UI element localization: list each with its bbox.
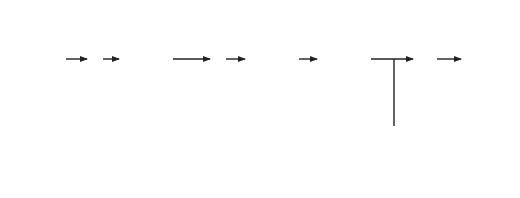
block-diagram [0,0,520,198]
signal-wires [0,0,520,198]
